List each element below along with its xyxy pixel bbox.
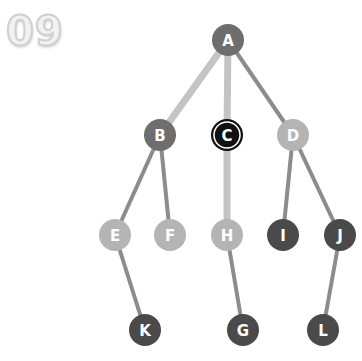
edge-d-j	[293, 135, 340, 235]
tree-edges	[115, 40, 340, 330]
tree-node-k: K	[129, 314, 161, 346]
tree-node-a: A	[212, 24, 244, 56]
tree-node-h: H	[211, 219, 243, 251]
tree-node-f: F	[154, 219, 186, 251]
node-label: K	[139, 322, 152, 340]
node-label: L	[318, 322, 328, 340]
tree-node-c: C	[211, 119, 243, 151]
node-label: B	[154, 127, 165, 145]
node-label: H	[221, 227, 234, 245]
node-label: D	[287, 127, 299, 145]
node-label: F	[165, 227, 175, 245]
tree-node-d: D	[277, 119, 309, 151]
tree-node-i: I	[267, 219, 299, 251]
node-label: J	[336, 227, 343, 245]
node-label: G	[237, 322, 249, 340]
tree-node-j: J	[324, 219, 356, 251]
node-label: A	[222, 32, 234, 50]
edge-a-d	[228, 40, 293, 135]
edge-a-b	[160, 40, 228, 135]
node-label: I	[280, 227, 286, 245]
node-label: E	[110, 227, 120, 245]
tree-diagram: ABCDEFHIJKGL	[0, 0, 362, 361]
tree-node-l: L	[307, 314, 339, 346]
node-label: C	[221, 127, 232, 145]
tree-node-e: E	[99, 219, 131, 251]
tree-node-g: G	[227, 314, 259, 346]
edge-b-e	[115, 135, 160, 235]
tree-node-b: B	[144, 119, 176, 151]
